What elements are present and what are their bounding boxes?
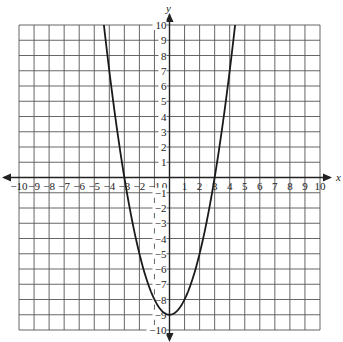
y-tick-label: 4	[161, 111, 167, 123]
x-tick-label: −4	[103, 180, 115, 192]
y-tick-label: 1	[161, 156, 167, 168]
y-tick-label: 8	[161, 50, 167, 62]
x-tick-label: 10	[315, 180, 327, 192]
x-tick-labels: −10−9−8−7−6−5−4−3−2−1012345678910	[10, 180, 326, 192]
x-tick-label: 8	[287, 180, 293, 192]
x-tick-label: 4	[227, 180, 233, 192]
x-tick-label: 1	[182, 180, 188, 192]
x-tick-label: 7	[272, 180, 278, 192]
y-tick-label: 6	[161, 80, 167, 92]
x-tick-label: −2	[134, 180, 146, 192]
y-tick-label: 5	[161, 95, 167, 107]
x-tick-label: −8	[43, 180, 55, 192]
y-tick-label: −10	[149, 324, 167, 336]
y-tick-label: −7	[155, 278, 167, 290]
x-tick-label: −10	[10, 180, 28, 192]
x-tick-label: 5	[242, 180, 248, 192]
y-tick-label: 7	[161, 65, 167, 77]
y-axis-up-arrow-icon	[166, 13, 174, 22]
y-tick-label: −2	[155, 202, 167, 214]
y-tick-label: 2	[161, 141, 167, 153]
y-axis-label: y	[165, 2, 171, 14]
y-tick-label: 3	[161, 126, 167, 138]
x-axis-label: x	[335, 171, 341, 183]
y-axis-down-arrow-icon	[166, 333, 174, 342]
coordinate-plane: −10−9−8−7−6−5−4−3−2−1012345678910 −10−9−…	[0, 0, 343, 342]
x-tick-label: 2	[197, 180, 203, 192]
y-tick-label: 9	[161, 34, 167, 46]
y-tick-label: −5	[155, 248, 167, 260]
x-tick-label: −9	[28, 180, 40, 192]
y-tick-label: 10	[156, 19, 168, 31]
y-tick-label: −6	[155, 263, 167, 275]
x-tick-label: −6	[73, 180, 85, 192]
x-tick-label: −5	[88, 180, 100, 192]
y-tick-label: −1	[155, 187, 167, 199]
x-tick-label: 6	[257, 180, 263, 192]
x-tick-label: 9	[302, 180, 308, 192]
y-tick-label: −4	[155, 233, 167, 245]
x-tick-label: −7	[58, 180, 70, 192]
y-tick-label: −3	[155, 217, 167, 229]
